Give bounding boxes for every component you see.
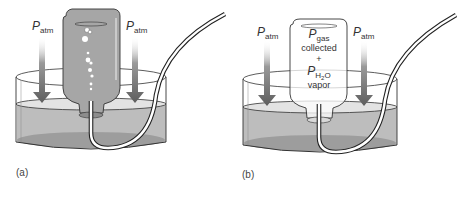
patm-label-left: Patm <box>32 20 53 32</box>
panel-tag-a: (a) <box>16 167 28 178</box>
patm-label-left-b: Patm <box>257 26 278 38</box>
collected-label: collected <box>293 44 345 53</box>
panel-b: Patm Patm Pgas collected + PH2O vapor (b… <box>231 0 462 199</box>
patm-label-right: Patm <box>126 20 147 32</box>
patm-label-right-b: Patm <box>353 26 374 38</box>
panel-a: Patm Patm (a) <box>0 0 231 199</box>
ph2o-label: PH2O <box>293 65 345 78</box>
panel-tag-b: (b) <box>242 169 254 180</box>
vapor-label: vapor <box>293 81 345 90</box>
pressure-arrow-right-b <box>355 40 373 106</box>
plus-sign: + <box>293 55 345 64</box>
bottle-pressure-text: Pgas collected + PH2O vapor <box>293 28 345 91</box>
pgas-label: Pgas <box>293 28 345 41</box>
